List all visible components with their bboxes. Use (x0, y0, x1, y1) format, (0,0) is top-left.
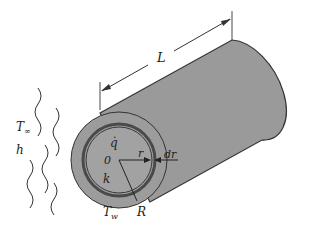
length-arrow-left (101, 84, 111, 91)
shell-thickness-label: dr (164, 148, 177, 161)
origin-label: 0 (104, 154, 111, 167)
conductivity-label: k (103, 172, 110, 186)
convection-wave-5 (51, 183, 57, 215)
convection-wave-2 (53, 108, 59, 156)
length-arrow-right (221, 19, 231, 26)
convection-wave-4 (27, 160, 33, 208)
convection-wave-1 (35, 88, 41, 136)
outer-radius-label: R (136, 205, 146, 219)
length-label: L (156, 50, 166, 65)
heat-generation-label: q̇ (110, 136, 118, 150)
ambient-temperature-label: T∞ (16, 120, 31, 136)
convection-wave-3 (42, 145, 48, 193)
cylinder-diagram: L q̇ 0 r dr k R Tw T∞ h (0, 0, 309, 233)
radius-variable-label: r (138, 147, 144, 160)
convection-coefficient-label: h (16, 143, 24, 157)
